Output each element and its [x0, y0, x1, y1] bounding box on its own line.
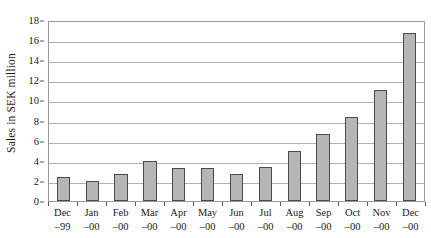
bar [345, 117, 358, 201]
x-axis-label-month: Jan [77, 206, 106, 220]
bar [57, 177, 70, 201]
y-axis-tickmark [40, 161, 44, 162]
x-axis-tick-label: Dec–00 [396, 206, 425, 238]
x-axis-label-year: –00 [77, 220, 106, 234]
x-axis-tickmark [425, 202, 426, 206]
x-axis-label-month: Sep [309, 206, 338, 220]
bar-slot [337, 22, 366, 201]
y-axis-tickmark [40, 121, 44, 122]
y-axis-tickmark [40, 61, 44, 62]
x-axis-tick-label: Sep–00 [309, 206, 338, 238]
y-axis-title: Sales in SEK million [0, 0, 22, 205]
x-axis-tick-label: Aug–00 [280, 206, 309, 238]
bar-slot [164, 22, 193, 201]
plot-area [48, 21, 425, 202]
x-axis-label-year: –00 [193, 220, 222, 234]
x-axis-label-year: –00 [222, 220, 251, 234]
y-axis-tick-label: 12 [29, 76, 40, 87]
x-axis-label-month: Jul [251, 206, 280, 220]
x-axis-label-month: Dec [48, 206, 77, 220]
bar-slot [251, 22, 280, 201]
x-axis-label-month: Mar [135, 206, 164, 220]
x-axis-label-month: Dec [396, 206, 425, 220]
x-axis-tick-label: Jul–00 [251, 206, 280, 238]
bar-slot [136, 22, 165, 201]
x-axis-label-year: –00 [309, 220, 338, 234]
bar [86, 181, 99, 201]
bar-slot [395, 22, 424, 201]
x-axis-tick-label: Mar–00 [135, 206, 164, 238]
bar-slot [309, 22, 338, 201]
x-axis-label-month: Aug [280, 206, 309, 220]
bar-slot [107, 22, 136, 201]
bar-slot [49, 22, 78, 201]
x-axis-label-month: May [193, 206, 222, 220]
y-axis-tickmark [40, 81, 44, 82]
bar [288, 151, 301, 201]
bar-slot [366, 22, 395, 201]
x-axis-tick-label: Apr–00 [164, 206, 193, 238]
bar [172, 168, 185, 201]
x-axis-label-month: Apr [164, 206, 193, 220]
x-axis-label-year: –00 [338, 220, 367, 234]
bar [201, 168, 214, 201]
x-axis-label-year: –00 [251, 220, 280, 234]
bar-slot [280, 22, 309, 201]
bar [403, 33, 416, 201]
y-axis-tick-label: 4 [34, 157, 39, 168]
x-axis-tick-label: Feb–00 [106, 206, 135, 238]
x-axis-label-month: Oct [338, 206, 367, 220]
y-axis-tickmark [40, 101, 44, 102]
x-axis-tick-labels: Dec–99Jan–00Feb–00Mar–00Apr–00May–00Jun–… [48, 206, 425, 238]
y-axis-tick-label: 0 [34, 197, 39, 208]
x-axis-label-month: Feb [106, 206, 135, 220]
y-axis-tick-label: 2 [34, 177, 39, 188]
x-axis-label-year: –99 [48, 220, 77, 234]
y-axis-tick-label: 14 [29, 56, 40, 67]
bar [230, 174, 243, 201]
bar [259, 167, 272, 201]
bar-slot [193, 22, 222, 201]
y-axis-tickmark [40, 202, 44, 203]
y-axis-tickmark [40, 21, 44, 22]
y-axis-tick-labels: 024681012141618 [22, 21, 44, 202]
bar [114, 174, 127, 201]
bars-container [49, 22, 424, 201]
bar-slot [222, 22, 251, 201]
y-axis-tick-label: 10 [29, 96, 40, 107]
y-axis-tick-label: 8 [34, 116, 39, 127]
x-axis-tick-label: Jan–00 [77, 206, 106, 238]
y-axis-tick-label: 6 [34, 136, 39, 147]
bar [316, 134, 329, 201]
x-axis-label-year: –00 [164, 220, 193, 234]
x-axis-label-year: –00 [280, 220, 309, 234]
x-axis-label-year: –00 [135, 220, 164, 234]
x-axis-tick-label: Dec–99 [48, 206, 77, 238]
x-axis-label-year: –00 [367, 220, 396, 234]
x-axis-tick-label: May–00 [193, 206, 222, 238]
bar [374, 90, 387, 201]
bar-slot [78, 22, 107, 201]
x-axis-label-year: –00 [396, 220, 425, 234]
x-axis-label-month: Nov [367, 206, 396, 220]
x-axis-tick-label: Nov–00 [367, 206, 396, 238]
y-axis-tickmark [40, 141, 44, 142]
x-axis-label-month: Jun [222, 206, 251, 220]
x-axis-tick-label: Oct–00 [338, 206, 367, 238]
y-axis-tick-label: 18 [29, 16, 40, 27]
x-axis-tick-label: Jun–00 [222, 206, 251, 238]
x-axis-label-year: –00 [106, 220, 135, 234]
y-axis-tick-label: 16 [29, 36, 40, 47]
bar-chart: Sales in SEK million 024681012141618 Dec… [0, 0, 431, 238]
y-axis-tickmark [40, 181, 44, 182]
y-axis-title-text: Sales in SEK million [5, 53, 17, 153]
bar [143, 161, 156, 201]
y-axis-tickmark [40, 41, 44, 42]
